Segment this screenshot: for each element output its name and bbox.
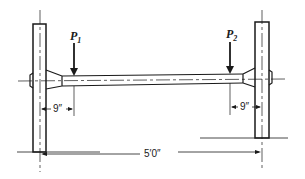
p2-arrowhead (226, 66, 234, 74)
right-offset-label: 9″ (240, 101, 250, 112)
load-p2-label: P2 (226, 27, 237, 43)
right-taper (243, 68, 255, 87)
overall-span-label: 5′0″ (144, 148, 161, 159)
p1-arrowhead (70, 68, 78, 76)
left-offset-label: 9″ (53, 103, 63, 114)
span-arrowhead-right (255, 150, 261, 154)
right-9in-arrow-l (231, 105, 236, 109)
shaft-top (62, 74, 243, 76)
left-wheel (33, 24, 46, 152)
shaft-bottom (62, 83, 243, 86)
load-p1-label: P1 (70, 29, 81, 45)
left-9in-arrow-r (68, 107, 73, 111)
axle-diagram: P1 P2 9″ 9″ 5′0″ (0, 0, 305, 179)
left-taper (46, 70, 62, 89)
horizontal-centerline (18, 79, 285, 81)
